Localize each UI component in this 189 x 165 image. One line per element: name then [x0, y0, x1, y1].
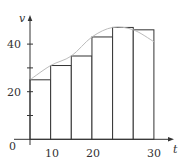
bar-20-25 [113, 27, 134, 139]
y-tick-label-40: 40 [7, 39, 21, 50]
x-tick-label-30: 30 [147, 148, 161, 159]
bar-0-5 [30, 80, 51, 140]
x-axis-arrow-icon [168, 137, 174, 142]
chart-canvas [0, 0, 189, 165]
y-axis-arrow-icon [28, 15, 33, 21]
y-tick-label-20: 20 [7, 87, 21, 98]
bar-5-10 [51, 66, 72, 140]
bar-25-30 [133, 30, 154, 139]
x-tick-label-10: 10 [45, 148, 59, 159]
x-axis-label: t [173, 144, 177, 155]
bar-10-15 [71, 56, 92, 139]
bars-group [30, 27, 154, 139]
origin-label: 0 [9, 141, 16, 152]
bar-15-20 [92, 37, 113, 139]
y-axis-label: v [19, 13, 25, 24]
x-tick-label-20: 20 [86, 148, 100, 159]
